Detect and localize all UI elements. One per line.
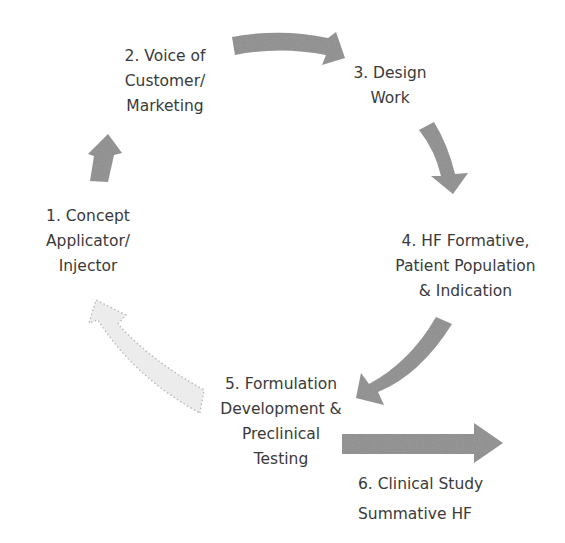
step-2-line-3: Marketing bbox=[105, 94, 225, 119]
step-1-line-3: Injector bbox=[28, 254, 148, 279]
step-6-label: 6. Clinical Study Summative HF bbox=[354, 469, 514, 529]
step-3-line-2: Work bbox=[335, 86, 445, 111]
step-4-line-3: & Indication bbox=[378, 279, 553, 304]
step-4-line-2: Patient Population bbox=[378, 254, 553, 279]
step-4-label: 4. HF Formative, Patient Population & In… bbox=[378, 229, 553, 304]
arrow-5-to-6 bbox=[342, 423, 503, 463]
step-3-line-1: 3. Design bbox=[335, 61, 445, 86]
step-2-line-1: 2. Voice of bbox=[105, 44, 225, 69]
step-6-line-1: 6. Clinical Study bbox=[354, 469, 514, 499]
step-5-line-1: 5. Formulation bbox=[206, 372, 356, 397]
step-1-label: 1. Concept Applicator/ Injector bbox=[28, 204, 148, 279]
arrow-2-to-3 bbox=[232, 32, 345, 65]
step-5-line-3: Preclinical bbox=[206, 422, 356, 447]
step-1-line-1: 1. Concept bbox=[28, 204, 148, 229]
arrow-5-to-1-faded bbox=[89, 300, 204, 413]
step-6-line-2: Summative HF bbox=[354, 499, 514, 529]
step-5-line-2: Development & bbox=[206, 397, 356, 422]
step-2-label: 2. Voice of Customer/ Marketing bbox=[105, 44, 225, 119]
step-4-line-1: 4. HF Formative, bbox=[378, 229, 553, 254]
step-3-label: 3. Design Work bbox=[335, 61, 445, 111]
step-5-label: 5. Formulation Development & Preclinical… bbox=[206, 372, 356, 472]
step-2-line-2: Customer/ bbox=[105, 69, 225, 94]
step-5-line-4: Testing bbox=[206, 447, 356, 472]
step-1-line-2: Applicator/ bbox=[28, 229, 148, 254]
cycle-diagram: 2. Voice of Customer/ Marketing 3. Desig… bbox=[0, 0, 565, 543]
arrow-4-to-5 bbox=[356, 317, 452, 405]
arrow-1-to-2 bbox=[88, 134, 122, 182]
arrow-3-to-4 bbox=[419, 122, 468, 194]
